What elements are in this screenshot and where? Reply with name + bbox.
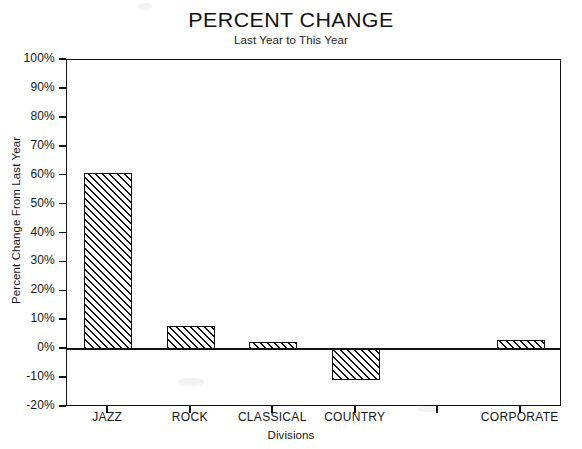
x-tick-label: CLASSICAL <box>238 410 307 424</box>
y-tick-label: 70% <box>30 138 55 152</box>
y-tick-mark <box>59 347 66 349</box>
y-tick-mark <box>59 261 66 263</box>
y-tick-mark <box>59 174 66 176</box>
x-axis-title: Divisions <box>0 429 582 441</box>
y-tick-label: 50% <box>30 196 55 210</box>
y-tick-mark <box>59 87 66 89</box>
y-tick-label: 10% <box>30 311 55 325</box>
y-tick-mark <box>59 58 66 60</box>
y-tick-label: 100% <box>24 51 56 65</box>
x-tick-label: ROCK <box>172 410 208 424</box>
bar <box>84 173 132 349</box>
y-tick-mark <box>59 290 66 292</box>
y-tick-mark <box>59 145 66 147</box>
y-tick-mark <box>59 318 66 320</box>
y-tick-label: 20% <box>30 282 55 296</box>
y-tick-label: 90% <box>30 80 55 94</box>
y-tick-label: 30% <box>30 253 55 267</box>
zero-line <box>67 348 560 350</box>
y-tick-label: -20% <box>26 398 55 412</box>
y-axis-title: Percent Change From Last Year <box>10 115 26 325</box>
x-tick-mark <box>436 406 438 413</box>
x-tick-label: JAZZ <box>92 410 122 424</box>
plot-area <box>67 60 560 405</box>
chart-title: PERCENT CHANGE <box>0 8 582 32</box>
plot-frame <box>66 59 561 406</box>
y-tick-mark <box>59 116 66 118</box>
y-tick-label: 80% <box>30 109 55 123</box>
x-tick-label: CORPORATE <box>481 410 559 424</box>
x-tick-label: COUNTRY <box>324 410 385 424</box>
y-tick-mark <box>59 232 66 234</box>
y-tick-mark <box>59 203 66 205</box>
chart-subtitle: Last Year to This Year <box>0 34 582 46</box>
bar <box>249 342 297 349</box>
bar <box>497 340 545 349</box>
y-tick-label: -10% <box>26 369 55 383</box>
bar <box>167 326 215 349</box>
y-tick-mark <box>59 405 66 407</box>
y-tick-mark <box>59 376 66 378</box>
y-tick-label: 60% <box>30 167 55 181</box>
y-tick-label: 0% <box>37 340 55 354</box>
bar <box>332 349 380 379</box>
y-tick-label: 40% <box>30 225 55 239</box>
